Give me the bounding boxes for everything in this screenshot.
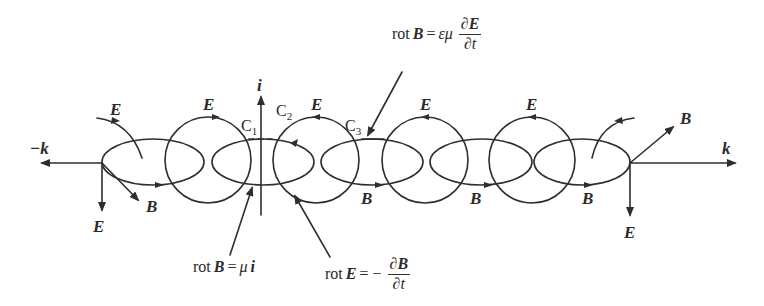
top-equation-leader (368, 72, 402, 135)
left-b-vector-label: B (146, 198, 157, 215)
b-arrowhead-icon (290, 139, 298, 147)
b-arrowhead-icon (375, 182, 384, 188)
b-loop-3 (321, 139, 423, 185)
right-e-vector-label: E (624, 224, 635, 241)
eq-numerator: ∂E (459, 16, 482, 35)
b-loop-1 (102, 139, 204, 185)
b-label: B (582, 190, 593, 207)
eq-rhs-vec: i (251, 258, 255, 276)
e-loop-1 (165, 117, 251, 203)
eq-rot: rot (392, 25, 410, 43)
e-label: E (311, 96, 322, 113)
e-label: E (110, 101, 121, 118)
eq-vec: B (413, 25, 424, 43)
bottom-right-equation-leader (295, 196, 330, 257)
c2-label: C2 (276, 103, 292, 122)
b-arrowhead-icon (155, 182, 164, 188)
b-arrowhead-icon (484, 182, 493, 188)
eq-rot: rot (193, 258, 211, 276)
magnetic-field-loops (102, 139, 630, 188)
eq-denominator: ∂t (464, 35, 476, 53)
b-loop-4 (430, 139, 532, 185)
e-label: E (420, 96, 431, 113)
eq-equals: = (227, 258, 236, 276)
e-arrowhead-icon (528, 114, 536, 120)
b-label: B (470, 190, 481, 207)
eq-rot: rot (325, 265, 343, 283)
left-e-partial-loop (97, 118, 142, 158)
left-end-vectors (97, 117, 142, 210)
b-loop-5 (534, 139, 630, 185)
b-label: B (361, 190, 372, 207)
negative-k-label: −k (30, 140, 49, 157)
positive-k-label: k (722, 140, 731, 157)
eq-fraction: ∂E ∂t (459, 16, 482, 53)
faraday-equation: rot E = − ∂B ∂t (325, 256, 410, 293)
left-b-vector-arrow (102, 163, 138, 200)
e-arrowhead-icon (421, 114, 429, 120)
eq-coef: εμ (438, 25, 452, 43)
e-arrowhead-icon (312, 114, 320, 120)
e-label: E (203, 96, 214, 113)
right-end-vectors (592, 117, 673, 215)
ampere-maxwell-equation: rot B = εμ ∂E ∂t (392, 16, 481, 53)
e-label: E (526, 96, 537, 113)
eq-denominator: ∂t (393, 275, 405, 293)
eq-vec: E (346, 265, 357, 283)
e-loop-3 (382, 117, 468, 203)
c3-label: C3 (345, 118, 361, 137)
b-loop-2 (212, 139, 314, 185)
eq-equals: = (426, 25, 435, 43)
ampere-equation: rot B = μ i (193, 258, 255, 276)
right-e-partial-loop (592, 118, 634, 158)
eq-vec: B (214, 258, 225, 276)
c1-label: C1 (241, 118, 257, 137)
eq-fraction: ∂B ∂t (388, 256, 411, 293)
right-b-vector-arrow (630, 127, 673, 163)
current-i-label: i (257, 77, 262, 94)
eq-coef: μ (239, 258, 247, 276)
eq-equals: = − (359, 265, 381, 283)
eq-numerator: ∂B (388, 256, 411, 275)
left-e-vector-label: E (93, 218, 104, 235)
b-arrowhead-icon (584, 182, 593, 188)
right-b-vector-label: B (680, 110, 691, 127)
bottom-left-equation-leader (230, 188, 252, 255)
